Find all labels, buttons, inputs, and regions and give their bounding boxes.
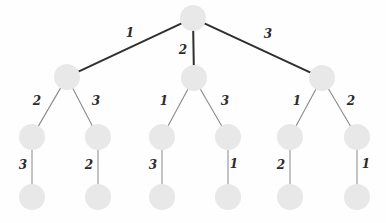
edge-weight-label: 3 (92, 95, 100, 107)
edge-weight-label: 2 (85, 159, 93, 171)
edge-weight-label: 2 (347, 95, 355, 107)
edge-weight-label: 1 (160, 95, 168, 107)
tree-node (181, 65, 207, 91)
tree-node (149, 184, 175, 210)
edge-weight-label: 2 (33, 95, 41, 107)
tree-node (19, 184, 45, 210)
edges-layer (32, 23, 357, 185)
tree-node (215, 184, 241, 210)
tree-graphics (0, 0, 386, 223)
tree-node (85, 184, 111, 210)
tree-node (344, 184, 370, 210)
edge-weight-label: 1 (362, 158, 370, 170)
edge-weight-label: 3 (221, 95, 229, 107)
tree-node (54, 64, 80, 90)
tree-edge (168, 89, 189, 127)
tree-node (277, 184, 303, 210)
tree-node (277, 124, 303, 150)
edge-weight-label: 1 (293, 95, 301, 107)
tree-node (344, 124, 370, 150)
edge-weight-label: 3 (19, 159, 27, 171)
edge-weight-label: 1 (230, 158, 238, 170)
tree-node (215, 124, 241, 150)
tree-node (149, 124, 175, 150)
edge-weight-label: 2 (179, 44, 187, 56)
tree-node (85, 124, 111, 150)
edge-weight-label: 2 (277, 159, 285, 171)
tree-node (309, 65, 335, 91)
tree-node (180, 5, 206, 31)
tree-edge (73, 88, 93, 127)
edge-weight-label: 1 (126, 27, 134, 39)
tree-edge (204, 23, 311, 73)
tree-edge (38, 87, 61, 126)
edge-weight-label: 3 (149, 159, 157, 171)
tree-edge (193, 30, 194, 66)
nodes-layer (19, 5, 370, 210)
tree-edge (200, 88, 222, 126)
tree-node (19, 124, 45, 150)
edge-weight-label: 3 (264, 28, 272, 40)
tree-diagram: 123231312323121 (0, 0, 386, 223)
